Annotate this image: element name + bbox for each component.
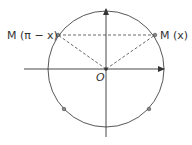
point-m-pi-minus-x-label: M (π − x) [7, 29, 58, 42]
point-lower-left [62, 107, 66, 111]
point-m-x [153, 33, 157, 37]
dashed-radius-right [106, 35, 155, 69]
origin-label: O [96, 71, 105, 84]
point-lower-right [147, 107, 151, 111]
point-m-x-label: M (x) [160, 29, 188, 42]
origin-point [104, 67, 108, 71]
dashed-radius-left [58, 35, 106, 69]
unit-circle-diagram: O M (x) M (π − x) [0, 0, 192, 145]
